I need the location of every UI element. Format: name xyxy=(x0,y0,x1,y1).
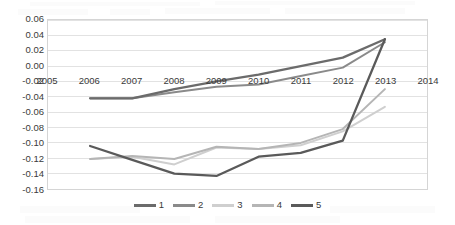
legend-swatch-2 xyxy=(173,204,195,207)
legend-item-5[interactable]: 5 xyxy=(291,200,321,210)
y-axis-tick-label: -0.10 xyxy=(0,138,44,148)
series-line-4 xyxy=(90,89,385,159)
plot-area xyxy=(47,19,428,190)
y-axis-tick-label: 0.06 xyxy=(0,14,44,24)
x-axis-tick-label: 2007 xyxy=(111,76,153,86)
legend-label: 4 xyxy=(277,200,282,210)
x-axis-tick-label: 2006 xyxy=(68,76,110,86)
x-axis-tick-label: 2011 xyxy=(280,76,322,86)
y-axis-tick-label: -0.04 xyxy=(0,92,44,102)
legend-swatch-5 xyxy=(291,204,313,207)
legend-label: 1 xyxy=(159,200,164,210)
legend-item-3[interactable]: 3 xyxy=(212,200,242,210)
x-axis-tick-label: 2008 xyxy=(153,76,195,86)
legend-label: 3 xyxy=(237,200,242,210)
legend-swatch-1 xyxy=(134,204,156,207)
legend-label: 5 xyxy=(316,200,321,210)
x-axis-tick-label: 2005 xyxy=(26,76,68,86)
legend-item-2[interactable]: 2 xyxy=(173,200,203,210)
x-axis-tick-label: 2009 xyxy=(195,76,237,86)
y-axis-tick-label: 0.02 xyxy=(0,45,44,55)
line-chart: 0.060.040.020.00-0.02-0.04-0.06-0.08-0.1… xyxy=(0,0,455,225)
y-axis-tick-label: 0.00 xyxy=(0,61,44,71)
x-axis-tick-label: 2013 xyxy=(365,76,407,86)
y-axis-tick-label: -0.06 xyxy=(0,107,44,117)
legend-item-4[interactable]: 4 xyxy=(252,200,282,210)
series-lines xyxy=(48,20,427,189)
y-axis-tick-label: -0.08 xyxy=(0,123,44,133)
y-axis-tick-label: -0.16 xyxy=(0,185,44,195)
chart-legend: 12345 xyxy=(0,200,455,210)
y-axis-tick-label: 0.04 xyxy=(0,30,44,40)
y-axis-tick-label: -0.12 xyxy=(0,154,44,164)
x-axis-tick-label: 2014 xyxy=(407,76,449,86)
legend-swatch-4 xyxy=(252,204,274,207)
x-axis-tick-label: 2010 xyxy=(238,76,280,86)
x-axis-tick-label: 2012 xyxy=(322,76,364,86)
legend-label: 2 xyxy=(198,200,203,210)
series-line-2 xyxy=(90,42,385,98)
y-axis-tick-label: -0.14 xyxy=(0,169,44,179)
legend-swatch-3 xyxy=(212,204,234,207)
legend-item-1[interactable]: 1 xyxy=(134,200,164,210)
